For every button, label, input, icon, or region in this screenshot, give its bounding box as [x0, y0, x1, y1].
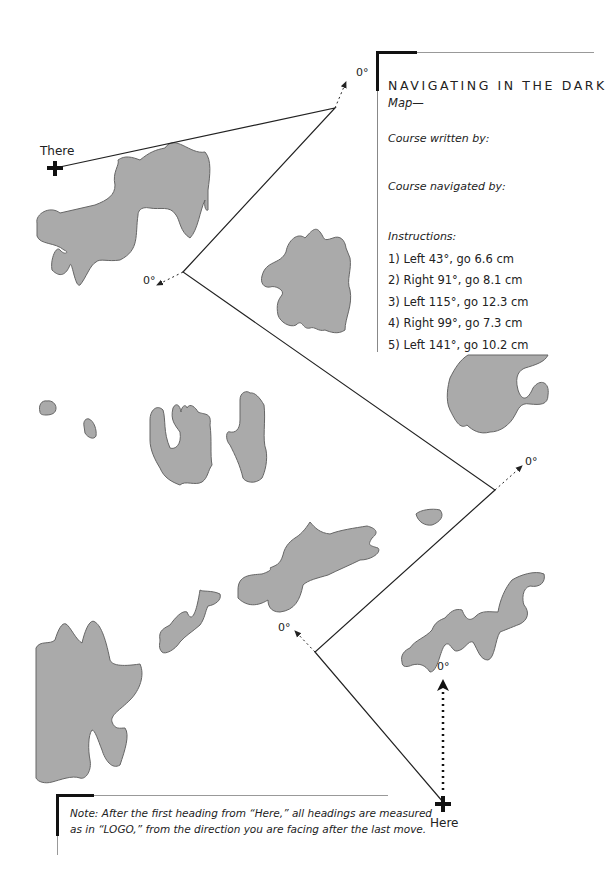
island [160, 590, 221, 653]
instructions-label: Instructions: [388, 230, 456, 243]
course-navigated-label: Course navigated by: [388, 180, 506, 193]
island [37, 143, 210, 286]
island [227, 392, 267, 483]
island [261, 229, 350, 332]
end-cross-icon [47, 161, 63, 176]
instruction-step: 1) Left 43°, go 6.6 cm [388, 252, 514, 266]
end-label: There [40, 144, 74, 158]
instructions-panel: NAVIGATING IN THE DARK Map— Course writt… [377, 52, 609, 352]
island [238, 522, 379, 612]
page-title: NAVIGATING IN THE DARK [388, 78, 607, 93]
instruction-step: 4) Right 99°, go 7.3 cm [388, 316, 523, 330]
map-subtitle: Map— [388, 96, 424, 110]
heading-label: 0° [356, 66, 369, 79]
note-text: Note: After the first heading from “Here… [70, 807, 432, 819]
heading-arrow [335, 82, 346, 108]
island [402, 573, 545, 672]
island [39, 401, 56, 415]
heading-arrow [157, 272, 183, 285]
island [84, 419, 96, 438]
course-written-label: Course written by: [388, 132, 490, 145]
island [447, 355, 548, 433]
island [36, 621, 142, 783]
note-text: as in “LOGO,” from the direction you are… [70, 823, 426, 835]
heading-label: 0° [437, 660, 450, 673]
heading-label: 0° [278, 621, 291, 634]
heading-arrow [295, 631, 315, 652]
instruction-step: 3) Left 115°, go 12.3 cm [388, 295, 529, 309]
heading-arrow [495, 466, 522, 490]
island [416, 509, 442, 525]
instruction-step: 2) Right 91°, go 8.1 cm [388, 273, 523, 287]
instruction-step: 5) Left 141°, go 10.2 cm [388, 338, 529, 352]
note-panel: Note: After the first heading from “Here… [57, 795, 498, 855]
island [150, 405, 212, 485]
heading-label: 0° [525, 455, 538, 468]
heading-label: 0° [143, 274, 156, 287]
